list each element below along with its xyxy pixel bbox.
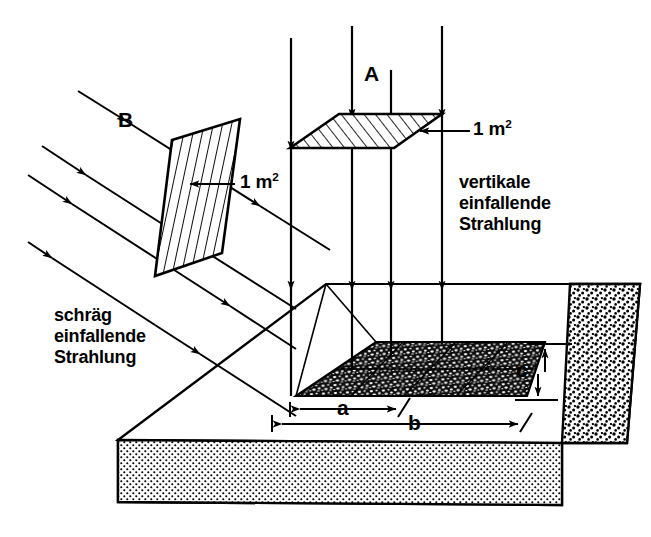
plane-a <box>290 114 442 148</box>
plane-b-area-exponent: 2 <box>272 170 278 183</box>
plane-b-area-value: 1 m <box>240 171 272 192</box>
plane-b <box>155 119 240 276</box>
dimension-a-label: a <box>337 396 349 421</box>
plane-a-area-exponent: 2 <box>505 117 511 130</box>
diagram-canvas <box>0 0 651 537</box>
vertical-radiation-caption: vertikale einfallende Strahlung <box>459 172 551 236</box>
dimension-c-label: c <box>516 358 528 383</box>
oblique-ray-3 <box>28 175 72 204</box>
oblique-radiation-caption: schräg einfallende Strahlung <box>54 305 146 369</box>
plane-a-label: A <box>364 62 379 87</box>
oblique-ray-4 <box>28 242 52 258</box>
plane-a-surface <box>290 114 442 148</box>
plane-b-area-label: 1 m2 <box>240 171 278 193</box>
slab-front-face-outline <box>118 440 562 505</box>
dimension-b-label: b <box>408 411 421 436</box>
plane-b-label: B <box>118 108 133 133</box>
plane-b-surface <box>155 119 240 276</box>
radiation-incidence-diagram: A B 1 m2 1 m2 vertikale einfallende Stra… <box>0 0 651 537</box>
plane-a-area-value: 1 m <box>473 118 505 139</box>
plane-a-area-label: 1 m2 <box>473 118 511 140</box>
oblique-ray-2 <box>42 146 86 175</box>
slab-right-face-outline <box>562 284 640 443</box>
